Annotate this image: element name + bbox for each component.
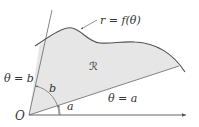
origin-label: O <box>15 109 25 123</box>
angle-b-label: b <box>49 82 56 95</box>
polar-region-diagram: r = f(θ) θ = b θ = a ℛ b a O <box>0 0 199 127</box>
region-r <box>29 28 179 115</box>
curve-label-pointer <box>81 20 97 29</box>
angle-a-label: a <box>67 100 74 113</box>
ray-b-label: θ = b <box>4 72 34 85</box>
region-label: ℛ <box>89 60 98 73</box>
curve-label: r = f(θ) <box>100 14 141 27</box>
ray-a-label: θ = a <box>108 92 137 105</box>
